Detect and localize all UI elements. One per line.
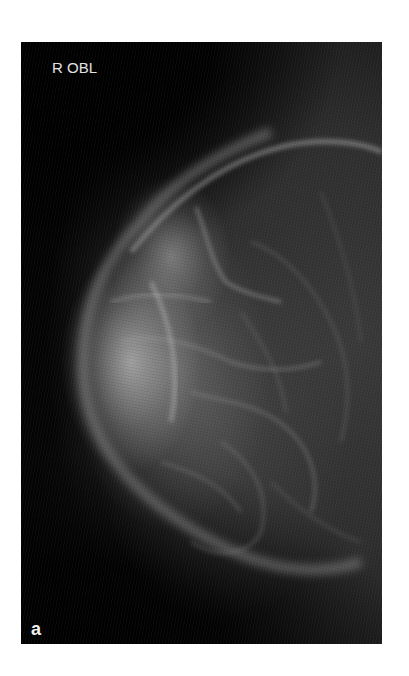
mammogram-image-panel: R OBL a (21, 42, 382, 644)
view-label: R OBL (52, 59, 97, 76)
panel-label: a (31, 619, 41, 640)
film-grain-texture (21, 42, 382, 644)
